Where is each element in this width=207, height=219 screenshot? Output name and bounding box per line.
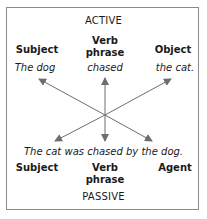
- passive-agent-header: Agent: [150, 162, 200, 174]
- passive-verb-header-line2: phrase: [80, 174, 130, 186]
- passive-title: PASSIVE: [0, 191, 207, 203]
- arrow-to-passive-subject-icon: [55, 115, 105, 141]
- arrow-to-active-subject-icon: [39, 79, 105, 115]
- arrow-to-passive-agent-icon: [105, 115, 152, 141]
- arrow-to-active-object-icon: [105, 79, 171, 115]
- passive-verb-header-line1: Verb: [80, 162, 130, 174]
- passive-subject-header: Subject: [12, 162, 62, 174]
- mapping-arrows: [0, 0, 207, 219]
- passive-sentence: The cat was chased by the dog.: [0, 146, 207, 158]
